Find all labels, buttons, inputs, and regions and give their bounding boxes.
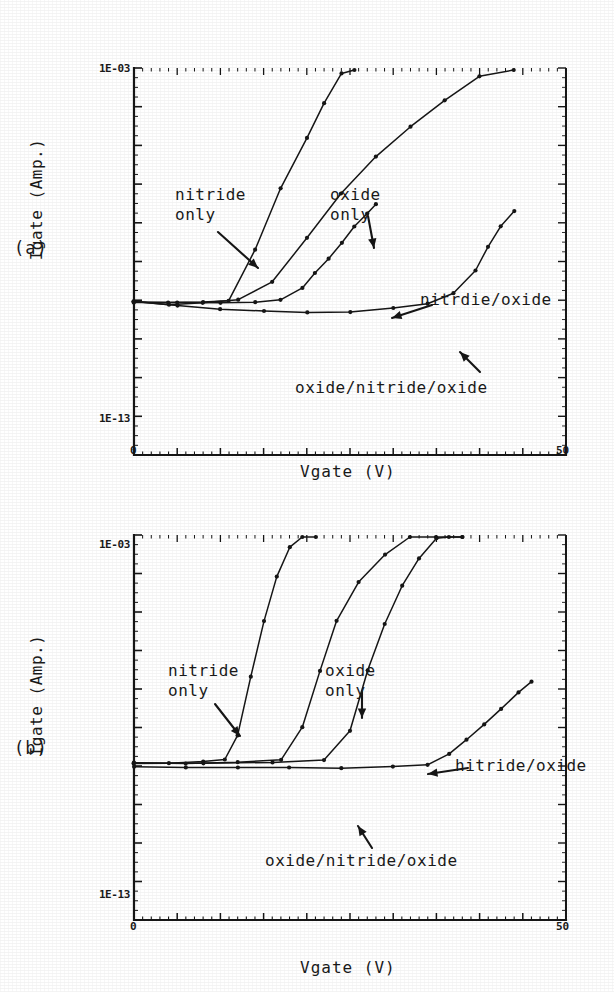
panel-b-plot-area xyxy=(0,496,614,992)
panel-b: (b) Igate (Amp.) Vgate (V) 1E-03 1E-13 0… xyxy=(0,496,614,992)
panel-a-plot-area xyxy=(0,0,614,496)
panel-b-label-nitride-oxide: hitride/oxide xyxy=(455,756,587,776)
panel-a-label-nitride-oxide: nitrdie/oxide xyxy=(420,290,552,310)
panel-b-label-oxide-only: oxideonly xyxy=(325,661,376,701)
figure-igate-vgate: (a) Igate (Amp.) Vgate (V) 1E-03 1E-13 0… xyxy=(0,0,614,992)
panel-a-label-nitride-only: nitrideonly xyxy=(175,185,246,225)
panel-b-label-oxide-nitride-oxide: oxide/nitride/oxide xyxy=(265,851,458,871)
panel-a: (a) Igate (Amp.) Vgate (V) 1E-03 1E-13 0… xyxy=(0,0,614,496)
panel-b-label-nitride-only: nitrideonly xyxy=(168,661,239,701)
panel-a-label-oxide-nitride-oxide: oxide/nitride/oxide xyxy=(295,378,488,398)
panel-a-label-oxide-only: oxideonly xyxy=(330,185,381,225)
